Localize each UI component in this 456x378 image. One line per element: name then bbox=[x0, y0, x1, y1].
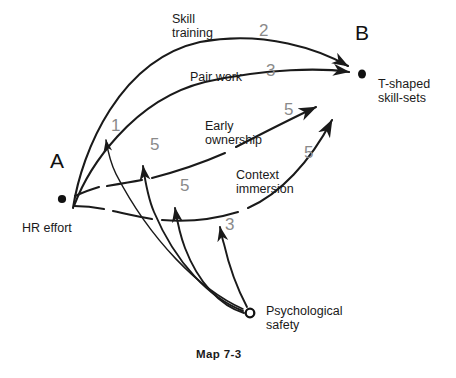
weight-skill-training: 2 bbox=[259, 22, 268, 39]
diagram-canvas: A B HR effort T-shaped skill-sets Psycho… bbox=[0, 0, 456, 378]
weight-ps-to-early-ownership: 5 bbox=[180, 177, 189, 194]
edge-label-early-ownership: Early ownership bbox=[205, 119, 262, 147]
node-a-dot bbox=[58, 195, 66, 203]
edge-label-context-immersion: Context immersion bbox=[236, 168, 294, 196]
edge-label-pair-work: Pair work bbox=[190, 70, 242, 84]
node-psychological-safety-label: Psychological safety bbox=[266, 304, 342, 332]
weight-ps-to-context-immersion: 3 bbox=[225, 216, 234, 233]
weight-early-ownership: 5 bbox=[284, 101, 293, 118]
weight-pair-work: 3 bbox=[266, 62, 275, 79]
causal-loop-diagram bbox=[0, 0, 456, 378]
node-b-label: T-shaped skill-sets bbox=[378, 77, 430, 105]
weight-context-immersion: 5 bbox=[304, 144, 313, 161]
figure-caption: Map 7-3 bbox=[196, 348, 242, 361]
node-psychological-safety-dot bbox=[246, 309, 255, 318]
edge-ps-to-skill-training bbox=[106, 140, 243, 309]
weight-ps-to-skill-training: 1 bbox=[111, 117, 120, 134]
node-a-label: HR effort bbox=[22, 221, 72, 235]
node-a-letter: A bbox=[50, 150, 64, 171]
node-b-dot bbox=[358, 69, 366, 78]
edge-ps-to-context-immersion bbox=[220, 227, 247, 307]
node-b-letter: B bbox=[355, 22, 369, 43]
edge-label-skill-training: Skill training bbox=[172, 12, 213, 40]
weight-ps-to-pair-work: 5 bbox=[150, 136, 159, 153]
